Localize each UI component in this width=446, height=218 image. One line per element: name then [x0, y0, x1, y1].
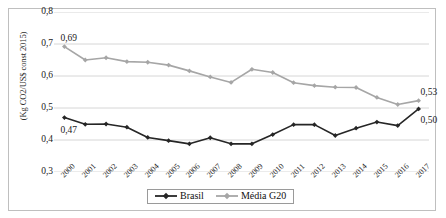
y-axis-tick-label: 0,4 [31, 135, 53, 145]
data-point-marker[interactable] [166, 63, 171, 68]
chart-legend: BrasilMédia G20 [147, 189, 294, 204]
data-point-marker[interactable] [62, 115, 67, 120]
data-point-marker[interactable] [104, 122, 109, 127]
data-point-marker[interactable] [395, 102, 400, 107]
data-point-marker[interactable] [166, 138, 171, 143]
data-point-marker[interactable] [208, 75, 213, 80]
data-point-marker[interactable] [83, 122, 88, 127]
plot-area [54, 12, 429, 172]
series-line-brasil [64, 109, 418, 144]
y-axis-tick-label: 0,6 [31, 71, 53, 81]
data-point-marker[interactable] [187, 141, 192, 146]
cut-off-caption-fragment [0, 0, 446, 5]
data-point-marker[interactable] [104, 55, 109, 60]
y-axis-tick-label: 0,8 [31, 7, 53, 17]
legend-item-brasil[interactable]: Brasil [155, 191, 204, 201]
data-point-label: 0,50 [421, 116, 438, 126]
data-point-marker[interactable] [416, 98, 421, 103]
data-point-label: 0,53 [421, 88, 438, 98]
data-point-marker[interactable] [187, 68, 192, 73]
data-point-marker[interactable] [125, 59, 130, 64]
legend-marker-icon [155, 191, 177, 201]
data-point-marker[interactable] [312, 83, 317, 88]
legend-marker-icon [216, 191, 238, 201]
data-point-marker[interactable] [250, 141, 255, 146]
data-point-marker[interactable] [354, 126, 359, 131]
chart-container: (Kg CO2/US$ const 2015) 0,80,70,60,50,40… [8, 8, 436, 211]
legend-label: Brasil [180, 191, 204, 201]
data-point-label: 0,47 [60, 126, 77, 136]
gridlines [54, 12, 429, 172]
data-point-marker[interactable] [145, 60, 150, 65]
data-point-marker[interactable] [208, 135, 213, 140]
series-layer [62, 44, 421, 146]
y-axis-tick-labels: 0,80,70,60,50,40,3 [23, 9, 53, 184]
legend-item-média-g20[interactable]: Média G20 [216, 191, 286, 201]
legend-label: Média G20 [241, 191, 286, 201]
data-point-marker[interactable] [229, 141, 234, 146]
plot-svg [54, 12, 429, 172]
y-axis-tick-label: 0,7 [31, 39, 53, 49]
data-point-marker[interactable] [375, 120, 380, 125]
y-axis-tick-label: 0,3 [31, 167, 53, 177]
y-axis-tick-label: 0,5 [31, 103, 53, 113]
data-point-label: 0,69 [60, 34, 77, 44]
data-point-marker[interactable] [333, 85, 338, 90]
